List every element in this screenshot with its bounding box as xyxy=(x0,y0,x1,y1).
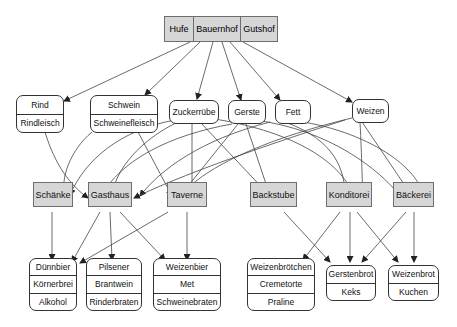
processor-baeckerei: Bäckerei xyxy=(393,182,434,207)
cell: Brantwein xyxy=(87,275,141,292)
processor-konditorei: Konditorei xyxy=(326,182,372,207)
processor-backstube: Backstube xyxy=(250,182,297,207)
cell: Alkohol xyxy=(30,293,76,310)
top-node-gutshof: Gutshof xyxy=(240,16,278,42)
product-group-4: Weizenbrötchen Cremetorte Praline xyxy=(247,258,315,311)
source-rind: Rind Rindleisch xyxy=(16,95,64,133)
cell: Praline xyxy=(248,293,314,310)
cell: Dünnbier xyxy=(30,259,76,275)
product-group-5: Gerstenbrot Keks xyxy=(326,265,376,301)
cell: Körnerbrei xyxy=(30,275,76,292)
cell: Pilsener xyxy=(87,259,141,275)
processor-gasthaus: Gasthaus xyxy=(88,182,132,207)
cell: Fett xyxy=(276,101,310,123)
cell: Keks xyxy=(327,283,375,301)
cell: Kuchen xyxy=(389,283,438,301)
top-node-hufe: Hufe xyxy=(164,16,194,42)
top-node: Hufe Bauernhof Gutshof xyxy=(165,16,278,42)
processor-taverne: Taverne xyxy=(167,182,207,207)
product-group-2: Pilsener Brantwein Rinderbraten xyxy=(86,258,142,311)
top-node-bauernhof: Bauernhof xyxy=(193,16,241,42)
cell: Gerstenbrot xyxy=(327,266,375,283)
product-group-6: Weizenbrot Kuchen xyxy=(388,265,439,301)
cell: Schwein xyxy=(91,96,157,114)
cell: Cremetorte xyxy=(248,275,314,292)
cell: Rindleisch xyxy=(17,114,63,133)
product-group-1: Dünnbier Körnerbrei Alkohol xyxy=(29,258,77,311)
source-weizen: Weizen xyxy=(352,99,389,123)
cell: Rinderbraten xyxy=(87,293,141,310)
source-gerste: Gerste xyxy=(228,100,266,124)
cell: Zuckerrübe xyxy=(170,101,218,123)
source-fett: Fett xyxy=(275,100,311,124)
cell: Schweinefleisch xyxy=(91,114,157,133)
cell: Rind xyxy=(17,96,63,114)
cell: Weizenbrötchen xyxy=(248,259,314,275)
cell: Gerste xyxy=(229,101,265,123)
cell: Met xyxy=(154,275,220,292)
product-group-3: Weizenbier Met Schweinebraten xyxy=(153,258,221,311)
source-schwein: Schwein Schweinefleisch xyxy=(90,95,158,133)
cell: Weizen xyxy=(353,100,388,122)
source-zuckerruebe: Zuckerrübe xyxy=(169,100,219,124)
cell: Weizenbrot xyxy=(389,266,438,283)
cell: Weizenbier xyxy=(154,259,220,275)
cell: Schweinebraten xyxy=(154,293,220,310)
processor-schaenke: Schänke xyxy=(33,182,73,207)
